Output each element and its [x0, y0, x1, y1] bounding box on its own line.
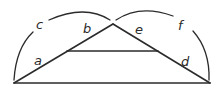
arc-c-upper	[49, 12, 110, 20]
right-side-line	[113, 24, 210, 83]
label-b: b	[83, 21, 91, 36]
triangle-diagram: a b c d e f	[0, 0, 220, 89]
label-e: e	[135, 22, 143, 37]
label-a: a	[34, 53, 42, 68]
label-f: f	[178, 18, 185, 33]
arc-f-upper	[116, 11, 173, 20]
label-d: d	[181, 54, 190, 69]
left-side-line	[14, 24, 113, 83]
arc-f-lower	[193, 31, 209, 80]
label-c: c	[36, 17, 43, 32]
